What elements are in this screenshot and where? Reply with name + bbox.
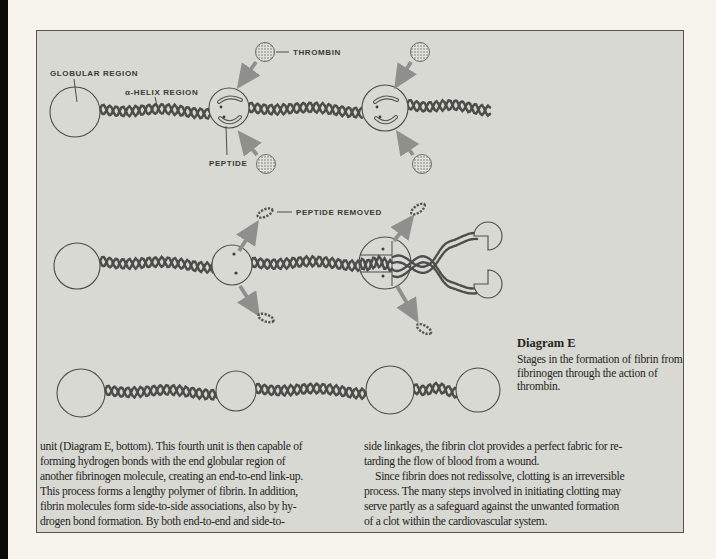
thrombin-sphere (257, 155, 276, 174)
body-column-left: unit (Diagram E, bottom). This fourth un… (40, 440, 362, 529)
row-fibrin-polymer (57, 366, 500, 417)
globular-region-circle (50, 87, 100, 137)
peptide-release-arrow (239, 226, 255, 251)
peptide-site-dot (234, 271, 237, 274)
globular-region-circle (54, 243, 100, 289)
diagram-caption: Diagram E Stages in the formation of fib… (517, 336, 693, 394)
body-line: unit (Diagram E, bottom). This fourth un… (40, 440, 362, 455)
peptide-removed-label: PEPTIDE REMOVED (296, 208, 382, 217)
caption-text: Stages in the formation of fibrin from f… (517, 353, 693, 394)
body-line: another fibrinogen molecule, creating an… (40, 470, 362, 485)
body-line: process. The many steps involved in init… (364, 485, 676, 500)
row-fibrin-monomer: PEPTIDE REMOVED (54, 202, 502, 336)
body-line: fibrin molecules form side-to-side assoc… (40, 500, 362, 515)
body-line: This process forms a lengthy polymer of … (40, 485, 362, 500)
thrombin-attack-arrow (241, 62, 256, 83)
removed-peptide-squiggle (256, 206, 273, 219)
body-column-right: side linkages, the fibrin clot provides … (364, 440, 676, 529)
thrombin-attack-arrow (242, 136, 257, 155)
alpha-helix-region-label: α-HELIX REGION (125, 88, 198, 97)
page-background: GLOBULAR REGION α-HELIX REGION THROMBIN … (0, 0, 716, 559)
thrombin-attack-arrow (400, 136, 413, 155)
thrombin-sphere (411, 43, 430, 62)
body-line: side linkages, the fibrin clot provides … (364, 440, 676, 455)
binding-site-shape (474, 270, 502, 298)
body-line: serve partly as a safeguard against the … (364, 500, 676, 515)
peptide-site-dot (232, 252, 235, 255)
body-line: forming hydrogen bonds with the end glob… (40, 455, 362, 470)
thrombin-sphere (256, 43, 275, 62)
peptide-release-arrow (397, 286, 415, 317)
thrombin-label: THROMBIN (293, 48, 341, 57)
body-line: of a clot within the cardiovascular syst… (364, 515, 676, 530)
peptide-label: PEPTIDE (209, 159, 247, 168)
binding-site-shape (474, 222, 502, 250)
globular-region-circle (216, 371, 256, 411)
removed-peptide-squiggle (415, 322, 432, 336)
peptide-pointer (226, 126, 227, 155)
thrombin-attack-arrow (398, 62, 411, 83)
peptide-release-arrow (240, 286, 256, 311)
thrombin-sphere (413, 155, 432, 174)
removed-peptide-squiggle (409, 202, 426, 217)
body-line: drogen bond formation. By both end-to-en… (40, 515, 362, 530)
globular-region-circle (57, 369, 105, 417)
body-line: Since fibrin does not redissolve, clotti… (364, 470, 676, 485)
central-globule-circle (212, 245, 252, 285)
peptide-release-arrow (394, 220, 410, 241)
globular-region-circle (456, 368, 500, 412)
globular-region-circle (366, 366, 414, 414)
globular-region-label: GLOBULAR REGION (50, 69, 138, 78)
body-line: tarding the flow of blood from a wound. (364, 455, 676, 470)
row-fibrinogen: GLOBULAR REGION α-HELIX REGION THROMBIN … (50, 43, 490, 174)
caption-title: Diagram E (517, 336, 693, 351)
removed-peptide-squiggle (257, 312, 274, 324)
